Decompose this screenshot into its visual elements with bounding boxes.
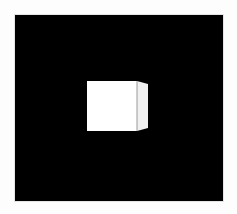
cube-front-face <box>87 81 137 131</box>
image-frame <box>0 0 237 214</box>
cube-scene <box>15 15 223 201</box>
render-canvas <box>15 15 223 201</box>
cube-side-face <box>137 81 148 131</box>
cube-icon <box>87 81 148 131</box>
